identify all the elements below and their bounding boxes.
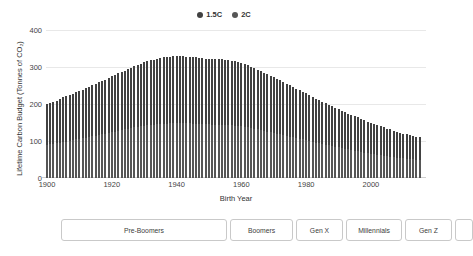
bar-segment-15c [198,58,200,124]
bar-segment-15c [257,70,259,130]
bar-segment-15c [143,62,145,125]
bar-segment-2c [56,143,58,178]
bar-segment-2c [237,126,239,178]
bar-segment-15c [357,117,359,151]
x-tick-1920: 1920 [103,180,120,189]
bar-segment-2c [282,135,284,178]
bar [318,100,320,178]
bar-segment-15c [208,59,210,125]
bar-segment-2c [46,145,48,178]
bar [373,124,375,178]
bar [179,56,181,178]
bar-segment-2c [308,141,310,178]
legend-item-2[interactable]: 2C [232,10,251,19]
bar-segment-2c [273,133,275,178]
bar-segment-2c [415,160,417,178]
bar-segment-2c [62,142,64,178]
bar-segment-2c [373,154,375,178]
legend-item-1[interactable]: 1.5C [197,10,222,19]
bar-segment-2c [338,147,340,178]
bar-segment-15c [279,80,281,134]
bar-segment-15c [412,136,414,159]
bar [49,103,51,178]
generation-box-millennials[interactable]: Millennials [346,219,402,241]
bar [143,62,145,178]
bar-segment-2c [114,132,116,178]
bar-segment-2c [91,136,93,178]
x-axis-ticks: 190019201940196019802000 [46,180,426,194]
bar-segment-15c [328,105,330,146]
bar [62,97,64,178]
generation-box-gen-z[interactable]: Gen Z [405,219,452,241]
bar-segment-2c [49,144,51,178]
bar [357,117,359,178]
bar-segment-2c [201,124,203,178]
bar-segment-15c [406,134,408,158]
bar [321,102,323,178]
bar [402,134,404,178]
bar [279,80,281,178]
bar-segment-15c [65,96,67,141]
bar-segment-2c [250,128,252,178]
legend-label-2: 2C [241,10,251,19]
bar-segment-15c [370,123,372,154]
bar [133,66,135,178]
generation-box-boomers[interactable]: Boomers [230,219,293,241]
bar-segment-2c [328,145,330,178]
bar-segment-2c [121,130,123,178]
bar-segment-2c [169,123,171,178]
bar [406,134,408,178]
bar [111,76,113,178]
bar [234,61,236,178]
bar-segment-15c [286,84,288,136]
bar-segment-15c [146,61,148,125]
bar [257,70,259,178]
bar-segment-15c [127,69,129,129]
bar [286,84,288,178]
bar-segment-15c [386,129,388,157]
bar-segment-15c [409,135,411,159]
bar-segment-2c [163,124,165,178]
bar-segment-2c [409,159,411,178]
bar-segment-15c [121,72,123,130]
bar-segment-15c [247,65,249,127]
bar-segment-2c [205,124,207,178]
bar-segment-2c [176,123,178,178]
bar-segment-2c [224,125,226,178]
bar-segment-15c [253,68,255,129]
bar-segment-2c [253,129,255,178]
bar [78,91,80,178]
generation-box-pre-boomers[interactable]: Pre-Boomers [61,219,227,241]
bar [270,76,272,178]
bar [240,63,242,178]
bar-segment-15c [360,119,362,152]
bar-segment-2c [270,132,272,178]
bar-segment-2c [393,157,395,178]
bar-segment-15c [318,100,320,143]
bar [393,131,395,179]
bar-segment-15c [214,59,216,124]
bar-segment-2c [98,135,100,178]
bar-segment-2c [104,134,106,178]
bar-segment-15c [179,56,181,123]
bar-segment-2c [292,137,294,178]
bar [127,69,129,178]
bar [282,82,284,178]
bar-segment-2c [88,137,90,178]
bar [350,115,352,178]
bar [302,92,304,178]
bar-segment-15c [101,81,103,134]
bar [389,129,391,178]
y-tick-100: 100 [29,137,42,146]
bar-segment-2c [117,131,119,178]
bar-segment-15c [150,60,152,125]
bar-segment-15c [250,67,252,128]
bar-segment-15c [159,58,161,124]
bar [176,56,178,178]
bar [163,57,165,178]
bar-segment-2c [179,123,181,178]
bar-segment-2c [231,125,233,178]
generation-box-gen-x[interactable]: Gen X [296,219,343,241]
generation-box-empty[interactable] [455,219,473,241]
bar-segment-2c [108,133,110,178]
